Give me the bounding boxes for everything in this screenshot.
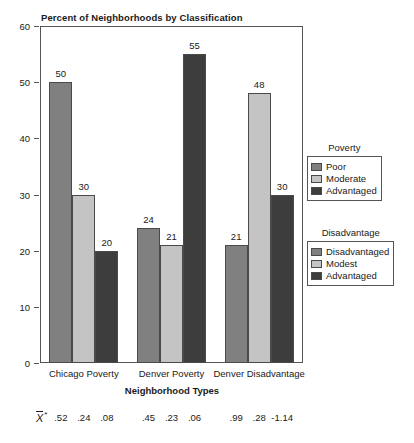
x-axis-category-label: Denver Poverty bbox=[139, 368, 204, 379]
legend-item: Disadvantaged bbox=[311, 246, 389, 257]
bar-value-label: 30 bbox=[277, 181, 288, 192]
y-axis-tick-mark bbox=[34, 363, 39, 364]
legend-item: Advantaged bbox=[311, 185, 377, 196]
bar bbox=[248, 93, 271, 363]
bar bbox=[225, 245, 248, 363]
mean-value: .99 bbox=[230, 412, 243, 423]
bar-value-label: 21 bbox=[166, 231, 177, 242]
bars-layer: 503020242155214830 bbox=[40, 26, 303, 363]
x-axis-title: Neighborhood Types bbox=[0, 385, 344, 396]
mean-value: .24 bbox=[77, 412, 90, 423]
mean-value: .28 bbox=[253, 412, 266, 423]
y-axis-tick-mark bbox=[34, 307, 39, 308]
mean-value: .08 bbox=[100, 412, 113, 423]
bar-value-label: 20 bbox=[102, 237, 113, 248]
legend-item: Modest bbox=[311, 258, 389, 269]
legend-swatch-icon bbox=[311, 163, 322, 171]
bar bbox=[49, 82, 72, 363]
y-axis-tick-mark bbox=[34, 195, 39, 196]
bar bbox=[137, 228, 160, 363]
legend-item-label: Disadvantaged bbox=[326, 246, 389, 257]
bar-value-label: 48 bbox=[254, 79, 265, 90]
bar-value-label: 21 bbox=[231, 231, 242, 242]
legend-swatch-icon bbox=[311, 248, 322, 256]
y-axis: 0102030405060 bbox=[0, 26, 36, 363]
y-axis-tick-label: 30 bbox=[19, 189, 30, 200]
legend-disadvantage-title: Disadvantage bbox=[307, 227, 394, 238]
y-axis-tick-label: 10 bbox=[19, 301, 30, 312]
legend-poverty: Poverty Poor Moderate Advantaged bbox=[307, 142, 382, 201]
x-axis-category-label: Chicago Poverty bbox=[49, 368, 119, 379]
legend-poverty-box: Poor Moderate Advantaged bbox=[307, 156, 382, 201]
mean-symbol-asterisk: * bbox=[44, 410, 47, 419]
legend-swatch-icon bbox=[311, 272, 322, 280]
legend-item-label: Advantaged bbox=[326, 270, 377, 281]
legend-disadvantage-box: Disadvantaged Modest Advantaged bbox=[307, 241, 394, 286]
bar bbox=[95, 251, 118, 363]
y-axis-tick-mark bbox=[34, 138, 39, 139]
y-axis-tick-mark bbox=[34, 26, 39, 27]
mean-value: .52 bbox=[54, 412, 67, 423]
bar-value-label: 50 bbox=[56, 68, 67, 79]
legend-item: Moderate bbox=[311, 173, 377, 184]
mean-value: .23 bbox=[165, 412, 178, 423]
legend-item-label: Modest bbox=[326, 258, 357, 269]
bar-value-label: 55 bbox=[189, 40, 200, 51]
bar bbox=[160, 245, 183, 363]
mean-annotation-row: X* .52.24.08.45.23.06.99.28-1.14 bbox=[0, 408, 414, 430]
y-axis-tick-label: 40 bbox=[19, 133, 30, 144]
legend-item-label: Advantaged bbox=[326, 185, 377, 196]
chart-title: Percent of Neighborhoods by Classificati… bbox=[41, 12, 243, 23]
y-axis-tick-label: 60 bbox=[19, 21, 30, 32]
bar bbox=[183, 54, 206, 363]
bar bbox=[72, 195, 95, 364]
legend-swatch-icon bbox=[311, 260, 322, 268]
legend-item: Advantaged bbox=[311, 270, 389, 281]
bar-value-label: 30 bbox=[79, 181, 90, 192]
legend-item-label: Poor bbox=[326, 161, 346, 172]
bar-value-label: 24 bbox=[143, 214, 154, 225]
mean-symbol-letter: X bbox=[36, 412, 43, 424]
y-axis-tick-label: 50 bbox=[19, 77, 30, 88]
y-axis-tick-label: 20 bbox=[19, 245, 30, 256]
y-axis-tick-label: 0 bbox=[25, 358, 30, 369]
mean-value: .45 bbox=[142, 412, 155, 423]
mean-value: -1.14 bbox=[271, 412, 293, 423]
legend-swatch-icon bbox=[311, 187, 322, 195]
y-axis-tick-mark bbox=[34, 82, 39, 83]
y-axis-tick-mark bbox=[34, 251, 39, 252]
mean-symbol: X* bbox=[36, 410, 47, 424]
x-axis-category-label: Denver Disadvantage bbox=[213, 368, 304, 379]
legend-swatch-icon bbox=[311, 175, 322, 183]
bar bbox=[271, 195, 294, 364]
legend-item: Poor bbox=[311, 161, 377, 172]
legend-disadvantage: Disadvantage Disadvantaged Modest Advant… bbox=[307, 227, 394, 286]
legend-item-label: Moderate bbox=[326, 173, 366, 184]
mean-value: .06 bbox=[188, 412, 201, 423]
legend-poverty-title: Poverty bbox=[307, 142, 382, 153]
